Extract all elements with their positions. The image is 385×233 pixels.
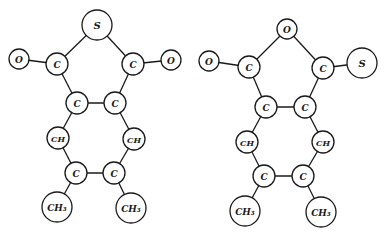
atom-c: C (294, 96, 316, 118)
atom-ch3: CH₃ (306, 197, 336, 227)
molecule-right: OOCCSCCCHCHCCCH₃CH₃ (199, 19, 377, 227)
atom-label: C (260, 172, 268, 182)
atom-label: C (110, 169, 118, 179)
atom-label: C (111, 99, 119, 109)
atom-group: SOCCOCCCHCHCCCH₃CH₃ (9, 10, 181, 223)
bond-group (19, 25, 171, 208)
molecule-diagram: SOCCOCCCHCHCCCH₃CH₃ OOCCSCCCHCHCCCH₃CH₃ (0, 0, 385, 233)
atom-ch: CH (236, 131, 258, 153)
atom-label: O (283, 25, 291, 35)
atom-label: CH₃ (235, 207, 255, 217)
atom-label: C (245, 63, 253, 73)
atom-o: O (277, 19, 297, 39)
atom-label: C (72, 169, 80, 179)
atom-label: O (167, 56, 175, 66)
atom-c: C (238, 56, 260, 78)
atom-ch3: CH₃ (230, 196, 260, 226)
atom-s: S (82, 10, 112, 40)
atom-label: C (301, 103, 309, 113)
molecule-left: SOCCOCCCHCHCCCH₃CH₃ (9, 10, 181, 223)
atom-group: OOCCSCCCHCHCCCH₃CH₃ (199, 19, 377, 227)
atom-ch3: CH₃ (42, 192, 72, 222)
atom-ch: CH (312, 131, 334, 153)
atom-label: C (299, 172, 307, 182)
atom-ch: CH (123, 128, 145, 150)
atom-label: O (15, 55, 23, 65)
atom-label: S (358, 58, 365, 69)
atom-c: C (65, 162, 87, 184)
atom-o: O (161, 50, 181, 70)
atom-label: C (53, 60, 61, 70)
atom-label: C (129, 60, 137, 70)
atom-o: O (9, 49, 29, 69)
atom-c: C (253, 165, 275, 187)
atom-o: O (199, 51, 219, 71)
atom-s: S (347, 48, 377, 78)
atom-label: S (93, 20, 100, 31)
atom-label: CH₃ (311, 208, 331, 218)
atom-label: C (319, 64, 327, 74)
atom-c: C (255, 96, 277, 118)
atom-c: C (104, 92, 126, 114)
atom-c: C (46, 53, 68, 75)
atom-c: C (66, 92, 88, 114)
atom-ch3: CH₃ (116, 193, 146, 223)
atom-label: CH (316, 138, 330, 148)
atom-c: C (292, 165, 314, 187)
atom-label: CH₃ (47, 203, 67, 213)
atom-label: CH (127, 135, 141, 145)
atom-label: CH (51, 134, 65, 144)
atom-c: C (122, 53, 144, 75)
atom-label: CH₃ (121, 204, 141, 214)
atom-label: C (262, 103, 270, 113)
atom-label: C (73, 99, 81, 109)
atom-label: CH (240, 138, 254, 148)
atom-c: C (312, 57, 334, 79)
atom-c: C (103, 162, 125, 184)
atom-ch: CH (47, 127, 69, 149)
bond-group (209, 29, 362, 212)
atom-label: O (205, 57, 213, 67)
